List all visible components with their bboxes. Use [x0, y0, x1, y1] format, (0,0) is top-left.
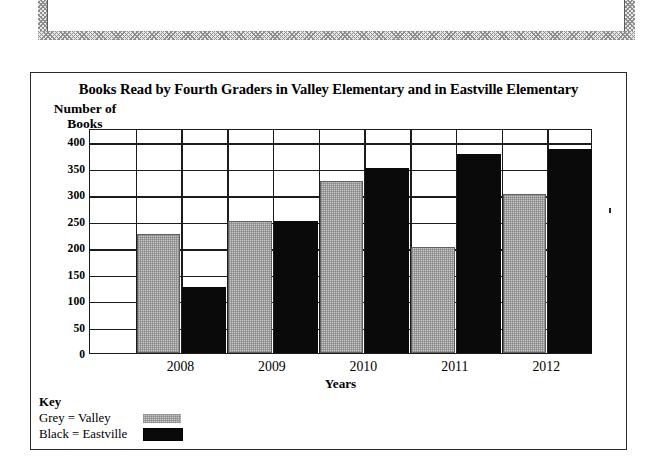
bar-valley-2011	[411, 247, 455, 353]
y-axis-tick-label: 50	[45, 321, 85, 334]
y-axis-tick-label: 150	[45, 268, 85, 281]
y-axis-tick-label: 350	[45, 162, 85, 175]
legend-swatch-black	[143, 428, 183, 441]
x-axis-tick-label-2009: 2009	[258, 359, 286, 375]
scan-artifact-speck	[609, 208, 611, 213]
legend-heading: Key	[39, 395, 183, 410]
bar-eastville-2009	[274, 221, 318, 353]
bar-valley-2009	[228, 221, 272, 353]
y-axis-tick-label: 300	[45, 189, 85, 202]
bar-valley-2008	[137, 234, 181, 353]
chart-legend: Key Grey = ValleyBlack = Eastville	[39, 395, 183, 442]
legend-row: Black = Eastville	[39, 426, 183, 442]
bar-eastville-2010	[365, 168, 409, 353]
bar-eastville-2008	[182, 287, 226, 353]
y-axis-tick-labels: 400350300250200150100500	[39, 129, 85, 354]
legend-swatch-grey	[143, 414, 181, 423]
instruction-box-hatch-right	[625, 0, 635, 32]
legend-label: Black = Eastville	[39, 426, 143, 442]
instruction-box: bar graphs figure out the answer.	[47, 0, 625, 32]
gridline-horizontal	[90, 143, 591, 144]
y-axis-title: Number of Books	[39, 102, 131, 131]
bar-eastville-2012	[548, 149, 592, 353]
bar-chart-figure: Books Read by Fourth Graders in Valley E…	[30, 72, 627, 450]
y-axis-tick-label: 0	[45, 348, 85, 361]
x-axis-title: Years	[89, 376, 592, 392]
gridline-horizontal	[90, 170, 591, 171]
bar-valley-2012	[503, 194, 547, 353]
legend-rows: Grey = ValleyBlack = Eastville	[39, 410, 183, 442]
chart-title: Books Read by Fourth Graders in Valley E…	[31, 81, 626, 98]
bar-eastville-2011	[457, 154, 501, 353]
legend-row: Grey = Valley	[39, 410, 183, 426]
instruction-box-hatch-bottom	[38, 31, 635, 40]
x-axis-tick-label-2008: 2008	[167, 359, 195, 375]
y-axis-tick-label: 200	[45, 242, 85, 255]
y-axis-tick-label: 400	[45, 136, 85, 149]
x-axis-tick-label-2012: 2012	[532, 359, 560, 375]
y-axis-tick-label: 100	[45, 295, 85, 308]
x-axis-tick-label-2011: 2011	[441, 359, 468, 375]
y-axis-tick-label: 250	[45, 215, 85, 228]
bar-valley-2010	[320, 181, 364, 353]
x-axis-tick-label-2010: 2010	[350, 359, 378, 375]
plot-area	[89, 129, 592, 354]
y-axis-title-line1: Number of	[39, 102, 131, 117]
legend-label: Grey = Valley	[39, 410, 143, 426]
